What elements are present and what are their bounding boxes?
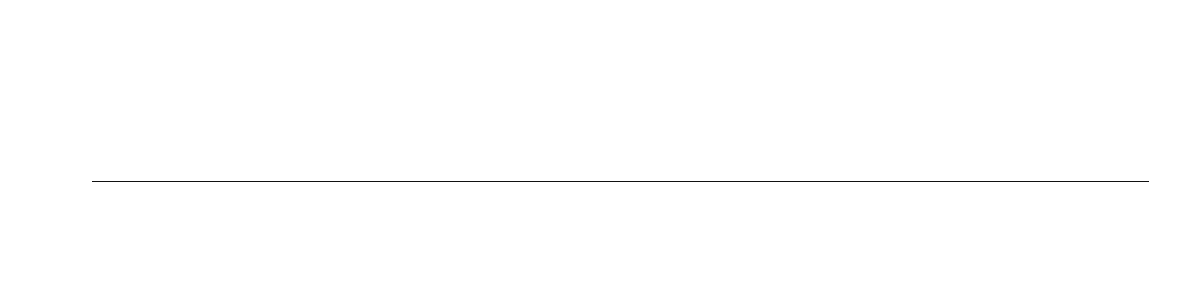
profile-plot-area	[92, 78, 1147, 181]
profile-curves	[92, 78, 1147, 181]
x-axis-line	[92, 181, 1149, 182]
y-axis-tick-labels	[0, 0, 88, 308]
